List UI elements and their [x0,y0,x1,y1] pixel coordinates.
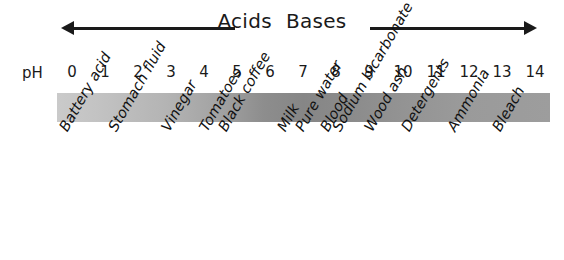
ph-scale-figure: AcidsBases pH 0 1 2 3 4 5 6 7 8 9 10 11 … [0,0,564,260]
ph-tick-4: 4 [191,63,217,81]
ph-tick-14: 14 [522,63,548,81]
substance-label-row: Battery acid Stomach fluid Vinegar Tomat… [0,122,564,260]
acid-base-labels: AcidsBases [0,9,564,33]
acids-label: Acids [217,9,272,33]
ph-axis-label: pH [22,64,43,82]
bases-label: Bases [286,9,347,33]
acid-base-arrow-row: AcidsBases [0,0,564,56]
ph-tick-7: 7 [290,63,316,81]
ph-tick-0: 0 [59,63,85,81]
ph-tick-3: 3 [158,63,184,81]
ph-tick-13: 13 [489,63,515,81]
